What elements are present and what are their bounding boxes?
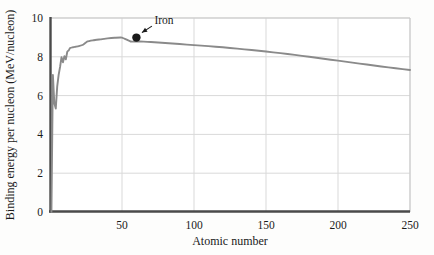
iron-data-point-marker: [132, 33, 140, 41]
x-tick-label-50: 50: [116, 219, 128, 231]
x-axis-title: Atomic number: [192, 234, 268, 248]
y-tick-label-2: 2: [37, 167, 43, 179]
y-tick-label-8: 8: [37, 51, 43, 63]
binding-energy-chart-figure: Iron 0246810 50100150200250 Atomic numbe…: [0, 0, 434, 255]
y-tick-label-10: 10: [32, 12, 44, 24]
x-tick-label-250: 250: [401, 219, 419, 231]
chart-canvas: Iron 0246810 50100150200250 Atomic numbe…: [0, 0, 434, 255]
x-tick-label-200: 200: [329, 219, 347, 231]
x-tick-label-150: 150: [257, 219, 275, 231]
y-axis-title: Binding energy per nucleon (MeV/nucleon): [3, 10, 17, 220]
x-tick-label-100: 100: [185, 219, 203, 231]
iron-annotation-label: Iron: [154, 14, 173, 26]
y-tick-label-0: 0: [37, 206, 43, 218]
y-tick-label-6: 6: [37, 90, 43, 102]
y-tick-label-4: 4: [37, 128, 43, 140]
y-axis-tick-labels: 0246810: [32, 12, 44, 218]
x-axis-tick-labels: 50100150200250: [116, 219, 419, 231]
